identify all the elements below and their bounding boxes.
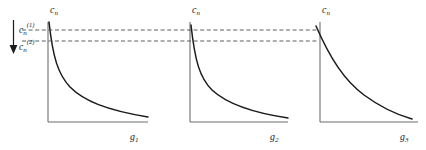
panel-2: cn g2 (190, 4, 288, 144)
panel-1-x-axis-label: g1 (130, 131, 139, 144)
panel-3-x-axis-label: g3 (400, 131, 409, 144)
annotation-label-lower: cn(2) (19, 38, 34, 55)
panel-1: cn g1 (48, 4, 148, 144)
panel-3-y-axis-label: cn (322, 4, 330, 17)
panel-1-curve (49, 22, 148, 117)
panel-3-curve (316, 26, 412, 119)
annotation-label-upper: cn(1) (19, 21, 34, 38)
panel-2-x-axis-label: g2 (270, 131, 279, 144)
panel-2-y-axis-label: cn (192, 4, 200, 17)
figure-triptych-decay-curves: cn g1 cn g2 cn g3 cn(1) cn(2) (0, 0, 426, 150)
panel-3: cn g3 (316, 4, 418, 144)
panel-2-curve (191, 25, 288, 118)
downward-arrow (10, 20, 18, 54)
panel-1-y-axis-label: cn (50, 4, 58, 17)
